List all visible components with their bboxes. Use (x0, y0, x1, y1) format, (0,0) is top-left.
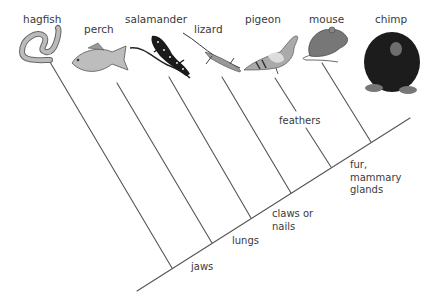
branch-pigeon-upper (275, 78, 296, 111)
trait-label-jaws: jaws (191, 261, 213, 274)
branch-hagfish (50, 62, 172, 268)
taxon-label-hagfish: hagfish (23, 13, 62, 25)
bird-icon (244, 36, 298, 74)
taxon-label-pigeon: pigeon (245, 13, 281, 25)
branch-mouse (322, 63, 371, 142)
branch-perch (117, 83, 212, 243)
hagfish-icon (22, 28, 59, 60)
lizard-icon (183, 33, 241, 72)
trait-label-lungs: lungs (232, 235, 259, 248)
branch-salamander (169, 77, 251, 218)
taxon-label-salamander: salamander (125, 13, 187, 25)
trait-label-feathers: feathers (279, 115, 321, 128)
trait-label-claws-or-nails: claws or nails (272, 208, 313, 233)
cladogram-lines (0, 0, 432, 306)
taxon-label-perch: perch (84, 23, 114, 35)
taxon-label-lizard: lizard (194, 23, 223, 35)
salamander-icon (130, 36, 190, 78)
mouse-icon (303, 27, 348, 62)
fish-icon (72, 43, 128, 71)
trait-label-fur-mammary-glands: fur, mammary glands (350, 159, 402, 197)
taxon-label-mouse: mouse (309, 13, 344, 25)
branch-lizard (222, 77, 291, 193)
branch-pigeon-lower (306, 128, 331, 167)
taxon-label-chimp: chimp (375, 13, 407, 25)
main-trunk (137, 118, 410, 291)
chimpanzee-icon (364, 32, 420, 94)
